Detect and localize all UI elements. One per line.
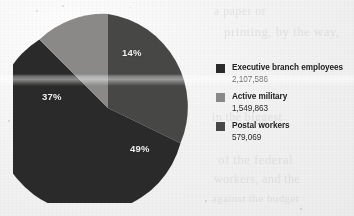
legend-item-active-military[interactable]: Active military 1,549,863 (216, 92, 354, 115)
legend-item-label: Postal workers (232, 121, 354, 131)
pie-label-executive-branch: 49% (130, 143, 150, 154)
pie-label-active-military: 37% (42, 91, 62, 102)
legend-item-value: 2,107,586 (232, 74, 354, 86)
legend-item-label: Active military (232, 92, 354, 102)
pie-svg (13, 13, 203, 203)
legend-swatch-icon (216, 122, 225, 131)
pie-label-postal-workers: 14% (122, 47, 142, 58)
pie-chart: 14% 37% 49% (0, 0, 216, 216)
legend-item-executive-branch-employees[interactable]: Executive branch employees 2,107,586 (216, 63, 354, 86)
legend-item-label: Executive branch employees (232, 63, 354, 73)
legend-item-value: 1,549,863 (232, 103, 354, 115)
legend-swatch-icon (216, 93, 225, 102)
legend-swatch-icon (216, 64, 225, 73)
scanned-pie-chart-figure: a paper or printing, by the way, in the … (0, 0, 354, 216)
chart-legend: Executive branch employees 2,107,586 Act… (216, 63, 354, 144)
legend-item-postal-workers[interactable]: Postal workers 579,069 (216, 121, 354, 144)
legend-item-value: 579,069 (232, 132, 354, 144)
